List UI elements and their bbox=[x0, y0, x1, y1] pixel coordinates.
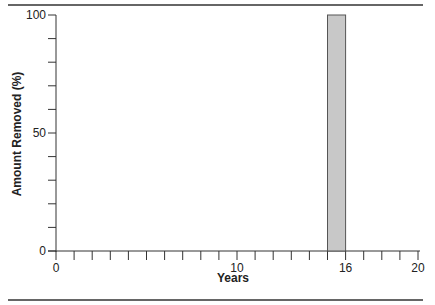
x-tick-label: 20 bbox=[411, 261, 425, 275]
x-axis-title: Years bbox=[217, 271, 249, 285]
bar-chart: 050100 0101620 Amount Removed (%) Years bbox=[0, 0, 435, 305]
y-tick-label: 0 bbox=[39, 244, 46, 258]
y-axis: 050100 bbox=[26, 8, 56, 258]
x-tick-label: 16 bbox=[339, 261, 353, 275]
x-tick-label: 0 bbox=[53, 261, 60, 275]
bar bbox=[328, 15, 346, 251]
y-axis-title: Amount Removed (%) bbox=[10, 72, 24, 197]
y-tick-label: 100 bbox=[26, 8, 46, 22]
y-tick-label: 50 bbox=[33, 126, 47, 140]
bars bbox=[328, 15, 346, 251]
